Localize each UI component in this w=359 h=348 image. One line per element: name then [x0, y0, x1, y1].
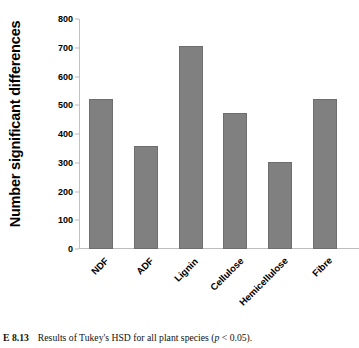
y-tick-label: 300 — [43, 158, 73, 168]
x-tick-label: Fibre — [310, 255, 334, 279]
plot-area: 8007006005004003002001000 — [79, 19, 347, 249]
x-axis-labels: NDFADFLigninCelluloseHemicelluloseFibre — [79, 251, 355, 323]
caption-text-after: < 0.05). — [219, 332, 252, 343]
y-tick-label: 200 — [43, 187, 73, 197]
y-tick-label: 400 — [43, 129, 73, 139]
x-tick-label: Lignin — [172, 255, 200, 283]
caption-text-before: Results of Tukey's HSD for all plant spe… — [38, 332, 215, 343]
y-tick-label: 0 — [43, 244, 73, 254]
bar — [313, 99, 337, 249]
bar — [268, 162, 292, 249]
bar — [223, 113, 247, 249]
y-tick-label: 500 — [43, 100, 73, 110]
y-tick-label: 700 — [43, 43, 73, 53]
x-tick-label: ADF — [134, 255, 156, 277]
bar-series — [79, 19, 347, 249]
y-tick-label: 600 — [43, 72, 73, 82]
y-tick-label: 100 — [43, 215, 73, 225]
bar — [89, 99, 113, 249]
bar — [179, 46, 203, 249]
y-tick-label: 800 — [43, 14, 73, 24]
x-tick-label: NDF — [89, 255, 111, 277]
figure-caption: E 8.13Results of Tukey's HSD for all pla… — [3, 332, 353, 343]
y-axis-title: Number significant differences — [0, 0, 30, 248]
x-tick-label: Cellulose — [208, 255, 246, 293]
caption-number: E 8.13 — [3, 332, 29, 343]
bar — [134, 146, 158, 250]
bar-chart-figure: Number significant differences 800700600… — [0, 0, 356, 330]
